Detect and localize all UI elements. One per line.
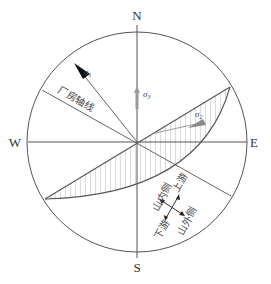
label-upstream: 上游 (169, 171, 189, 194)
stereonet-diagram: σ1 σ3 σ2 厂房轴线 N S W E 上游 山内侧 下游 山外侧 (0, 0, 271, 284)
sigma3-arrowhead-icon (134, 86, 140, 93)
compass-south: S (133, 260, 140, 275)
cross-line-b (166, 197, 178, 218)
sigma1-label: σ1 (84, 67, 91, 78)
compass-east: E (250, 135, 258, 150)
compass-north: N (132, 8, 142, 23)
sigma3-arrow-icon (136, 92, 139, 109)
label-inner-side: 山内侧 (149, 181, 174, 213)
label-outer-side: 山外侧 (174, 205, 199, 237)
label-downstream: 下游 (151, 218, 171, 241)
compass-west: W (9, 135, 22, 150)
plant-axis-label: 厂房轴线 (56, 83, 97, 113)
arrow-up-right-icon (176, 194, 180, 200)
sigma3-label: σ3 (143, 89, 150, 100)
